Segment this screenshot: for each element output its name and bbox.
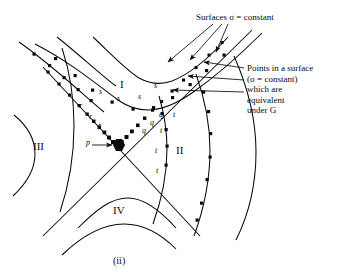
point-label-t-1: t: [173, 110, 175, 119]
figure-canvas: [0, 0, 346, 279]
point-label-s-1: s: [99, 87, 102, 96]
region-label-one: I: [120, 78, 124, 91]
point-label-q-1: q: [142, 126, 146, 135]
point-label-q-3: q: [159, 110, 163, 119]
saddle-point-label: p: [86, 138, 90, 147]
curve-III-inner: [13, 115, 35, 196]
annotation-right-line-5: under G: [247, 105, 313, 116]
annotation-arrows-top: [168, 24, 228, 62]
point-label-t-2: t: [160, 126, 162, 135]
curve-III-outer: [60, 48, 74, 212]
curve-I-inner: [35, 33, 262, 110]
annotation-right-line-1: Points in a surface: [247, 63, 313, 74]
region-label-two: II: [176, 144, 183, 157]
annotation-right-line-4: equivalent: [247, 95, 313, 106]
level-curves-outer-I: [93, 37, 228, 83]
point-label-t-3: t: [155, 146, 157, 155]
curve-IV-outer: [62, 224, 176, 255]
annotation-right-label: Points in a surface (σ = constant) which…: [247, 63, 313, 116]
annotation-top-label: Surfaces σ = constant: [196, 12, 274, 23]
figure-caption: (ii): [113, 255, 125, 267]
curve-II-middle: [194, 74, 210, 236]
level-curves-region-III: [13, 48, 74, 212]
region-label-three: III: [33, 140, 44, 153]
point-label-s-2: s: [117, 94, 120, 103]
curve-IV-inner: [78, 198, 176, 228]
curve-I-top: [93, 37, 228, 83]
annotation-arrows-right: [173, 62, 244, 92]
point-label-s-4: s: [154, 81, 157, 90]
point-label-q-2: q: [150, 118, 154, 127]
point-label-r-3: r: [98, 121, 101, 130]
point-label-r-2: r: [89, 112, 92, 121]
point-label-s-3: s: [138, 92, 141, 101]
annotation-right-line-3: which are: [247, 84, 313, 95]
point-label-t-4: t: [156, 166, 158, 175]
marked-points-asymptote-right: [120, 41, 224, 144]
point-label-r-1: r: [79, 101, 82, 110]
region-label-four: IV: [113, 204, 125, 217]
annotation-right-line-2: (σ = constant): [247, 74, 313, 85]
